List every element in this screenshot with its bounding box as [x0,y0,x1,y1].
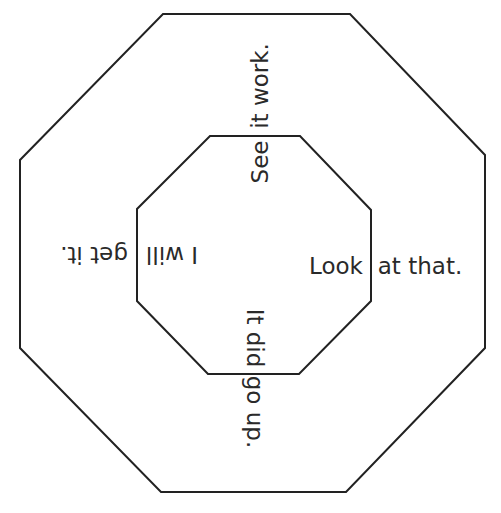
left-inner-text: I will [146,242,198,268]
top-inner-text: See [247,141,273,184]
bottom-outer-text: go up. [242,376,268,448]
right-inner-text: Look [309,253,364,279]
left-outer-text: get it. [60,242,128,268]
right-outer-text: at that. [378,253,462,279]
top-outer-text: it work. [247,43,273,129]
sentence-spinner-diagram: See it work. Look at that. It did go up.… [0,0,501,513]
bottom-inner-text: It did [242,309,268,368]
